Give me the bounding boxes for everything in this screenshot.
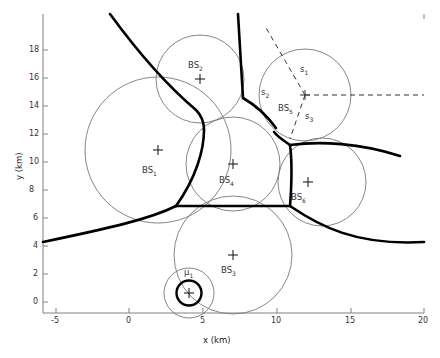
sector-boundary-s1-s2 bbox=[265, 26, 305, 95]
xtick-label-1: 0 bbox=[126, 316, 131, 325]
label-mu1: μ1 bbox=[184, 267, 193, 279]
ytick-label-6: 12 bbox=[29, 129, 39, 138]
label-bs4: BS4 bbox=[219, 175, 234, 187]
boundary-curve-nw bbox=[110, 14, 204, 130]
ytick-label-9: 18 bbox=[29, 45, 39, 54]
ytick-label-4: 8 bbox=[29, 185, 34, 194]
label-bs3: BS3 bbox=[221, 265, 236, 277]
ytick-label-7: 14 bbox=[29, 101, 39, 110]
ytick-label-0: 0 bbox=[33, 297, 38, 306]
boundary-curve-west-lower bbox=[176, 130, 204, 206]
plot-labels: BS1 BS2 BS3 BS4 BS5 BS6 s1 s2 bbox=[142, 60, 313, 279]
cellular-network-figure: BS1 BS2 BS3 BS4 BS5 BS6 s1 s2 bbox=[0, 0, 440, 358]
sector-boundary-s2-s3 bbox=[290, 95, 305, 139]
label-sector-s3: s3 bbox=[305, 111, 313, 123]
xtick-label-4: 15 bbox=[345, 316, 355, 325]
ytick-label-5: 10 bbox=[29, 157, 39, 166]
label-bs1: BS1 bbox=[142, 165, 157, 177]
x-axis-title: x (km) bbox=[203, 335, 231, 345]
label-bs6: BS6 bbox=[291, 192, 306, 204]
label-bs5: BS5 bbox=[278, 103, 293, 115]
sector-center-marker-bs5 bbox=[300, 90, 310, 100]
marker-bs4 bbox=[228, 159, 238, 169]
xtick-label-3: 10 bbox=[271, 316, 281, 325]
xtick-label-5: 20 bbox=[418, 316, 428, 325]
plot-canvas: BS1 BS2 BS3 BS4 BS5 BS6 s1 s2 bbox=[0, 0, 440, 358]
boundary-curve-n-center bbox=[238, 14, 243, 98]
boundary-curve-east-upper bbox=[290, 143, 400, 156]
ytick-label-1: 2 bbox=[33, 269, 38, 278]
sector-boundaries-bs5 bbox=[265, 26, 424, 139]
label-sector-s1: s1 bbox=[300, 64, 308, 76]
xtick-label-2: 5 bbox=[200, 316, 205, 325]
ytick-label-2: 4 bbox=[33, 241, 38, 250]
y-axis-title: y (km) bbox=[14, 152, 24, 180]
xtick-label-0: -5 bbox=[51, 316, 59, 325]
marker-bs3 bbox=[228, 250, 238, 260]
cell-boundary-curves bbox=[43, 14, 424, 242]
marker-bs2 bbox=[195, 74, 205, 84]
ytick-label-8: 16 bbox=[29, 73, 39, 82]
ytick-label-3: 6 bbox=[33, 213, 38, 222]
y-ticks bbox=[43, 50, 48, 302]
boundary-curve-sw bbox=[43, 206, 176, 242]
marker-bs1 bbox=[153, 145, 163, 155]
boundary-curve-ne-seg2 bbox=[274, 132, 290, 145]
label-sector-s2: s2 bbox=[261, 87, 269, 99]
x-ticks bbox=[56, 308, 424, 313]
marker-bs6 bbox=[303, 177, 313, 187]
label-bs2: BS2 bbox=[188, 60, 203, 72]
